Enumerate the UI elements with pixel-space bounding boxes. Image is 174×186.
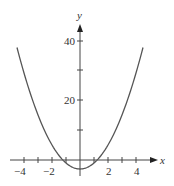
parabola-plot: −4 −2 2 4 20 40 x y [0,0,174,186]
x-tick-label: 4 [134,165,140,177]
y-tick-label: 40 [64,35,76,47]
x-tick-label: −4 [14,165,26,177]
x-axis-label: x [159,154,165,166]
y-axis-label: y [76,9,82,21]
chart-figure: −4 −2 2 4 20 40 x y [0,0,174,186]
x-tick-label: 2 [106,165,112,177]
y-tick-label: 20 [64,94,76,106]
x-axis-arrow-icon [150,157,158,163]
y-axis-arrow-icon [77,24,83,32]
x-tick-label: −2 [43,165,55,177]
